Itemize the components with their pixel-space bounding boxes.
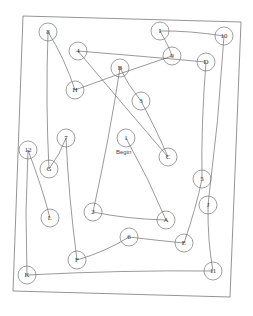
node-label: 11 (210, 267, 217, 275)
node-label: 10 (221, 32, 229, 40)
node-c: C (159, 148, 177, 166)
node-label: H (72, 86, 77, 94)
node-label: K (24, 271, 29, 279)
node-10: 10 (215, 27, 233, 45)
node-label: 6 (127, 233, 131, 241)
node-12: 12 (19, 141, 37, 159)
node-h: H (66, 81, 84, 99)
node-label: L (48, 214, 52, 222)
node-3: 3 (132, 92, 150, 110)
node-2: 2 (84, 203, 102, 221)
node-label: 9 (170, 52, 174, 60)
node-label: 2 (91, 208, 95, 216)
node-label: F (75, 256, 79, 264)
node-6: 6 (120, 228, 138, 246)
node-label: 12 (25, 146, 33, 154)
begin-label: Begin (116, 149, 131, 155)
node-label: J (207, 201, 210, 209)
node-4: 4 (69, 42, 87, 60)
node-9: 9 (163, 47, 181, 65)
node-label: D (203, 58, 208, 66)
node-label: 4 (76, 47, 80, 55)
node-label: E (182, 239, 186, 247)
node-label: C (166, 153, 171, 161)
node-label: 8 (46, 28, 50, 36)
node-e: E (175, 234, 193, 252)
node-label: 7 (64, 134, 68, 142)
node-label: G (46, 165, 51, 173)
node-label: 3 (139, 97, 143, 105)
node-f: F (68, 251, 86, 269)
node-label: 1 (124, 134, 128, 142)
node-label: A (163, 216, 168, 224)
node-b: B (111, 59, 129, 77)
node-label: B (118, 64, 123, 72)
trail-making-worksheet: 1A2B3C4D5E6F7G8H9I10J11K12L Begin (0, 0, 253, 316)
node-d: D (197, 53, 215, 71)
node-l: L (41, 209, 59, 227)
node-label: 5 (200, 175, 204, 183)
node-g: G (40, 160, 58, 178)
node-1: 1 (117, 129, 135, 147)
